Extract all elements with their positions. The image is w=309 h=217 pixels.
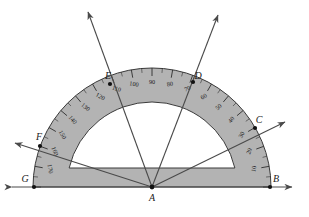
point-B: [268, 185, 272, 189]
point-label-E: E: [104, 70, 111, 81]
point-G: [32, 185, 36, 189]
point-label-B: B: [273, 173, 279, 184]
degree-label-80: 80: [166, 80, 173, 88]
protractor-diagram: 1020304050607080901001101201301401501601…: [0, 0, 309, 217]
point-label-C: C: [256, 114, 263, 125]
diagram-canvas: 1020304050607080901001101201301401501601…: [0, 0, 309, 217]
point-label-F: F: [35, 131, 43, 142]
degree-label-90: 90: [149, 78, 155, 85]
vertex-label-A: A: [148, 192, 156, 203]
protractor-body: [33, 68, 271, 187]
point-E: [108, 82, 112, 86]
point-C: [253, 126, 257, 130]
point-label-G: G: [21, 173, 28, 184]
degree-label-10: 10: [249, 165, 257, 172]
vertex-point-A: [150, 185, 155, 190]
point-F: [38, 144, 42, 148]
point-label-D: D: [193, 70, 202, 81]
